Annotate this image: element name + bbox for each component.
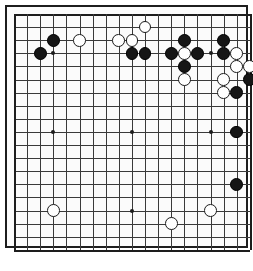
black-stone[interactable]	[217, 47, 230, 60]
white-stone[interactable]	[165, 217, 178, 230]
white-stone[interactable]	[230, 60, 243, 73]
black-stone[interactable]	[243, 73, 253, 86]
black-stone[interactable]	[178, 60, 191, 73]
black-stone[interactable]	[230, 86, 243, 99]
black-stone[interactable]	[34, 47, 47, 60]
grid-line-vertical	[14, 14, 16, 250]
white-stone[interactable]	[47, 204, 60, 217]
white-stone[interactable]	[217, 86, 230, 99]
black-stone[interactable]	[217, 34, 230, 47]
white-stone[interactable]	[178, 47, 191, 60]
black-stone[interactable]	[139, 47, 152, 60]
white-stone[interactable]	[112, 34, 125, 47]
grid-line-vertical	[119, 14, 120, 250]
white-stone[interactable]	[243, 60, 253, 73]
black-stone[interactable]	[230, 178, 243, 191]
black-stone[interactable]	[47, 34, 60, 47]
white-stone[interactable]	[178, 73, 191, 86]
star-point	[209, 51, 213, 55]
star-point	[130, 130, 134, 134]
black-stone[interactable]	[191, 47, 204, 60]
white-stone[interactable]	[217, 73, 230, 86]
grid-line-horizontal	[14, 250, 250, 252]
goban-panel[interactable]	[5, 5, 248, 248]
grid-line-vertical	[93, 14, 94, 250]
grid-line-vertical	[250, 14, 252, 250]
grid-line-vertical	[158, 14, 159, 250]
grid-line-vertical	[80, 14, 81, 250]
white-stone[interactable]	[204, 204, 217, 217]
star-point	[209, 130, 213, 134]
grid-line-vertical	[27, 14, 28, 250]
white-stone[interactable]	[126, 34, 139, 47]
star-point	[130, 209, 134, 213]
grid-line-vertical	[106, 14, 107, 250]
black-stone[interactable]	[165, 47, 178, 60]
white-stone[interactable]	[73, 34, 86, 47]
black-stone[interactable]	[126, 47, 139, 60]
grid-line-vertical	[66, 14, 67, 250]
go-board-screenshot	[0, 0, 253, 271]
black-stone[interactable]	[178, 34, 191, 47]
white-stone[interactable]	[230, 47, 243, 60]
